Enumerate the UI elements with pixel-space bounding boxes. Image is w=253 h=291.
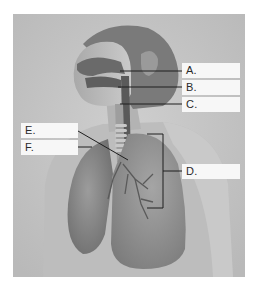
label-a[interactable]: A. xyxy=(182,63,240,78)
label-c-text: C. xyxy=(186,98,197,110)
label-b[interactable]: B. xyxy=(182,80,240,95)
label-c[interactable]: C. xyxy=(182,97,240,112)
label-f[interactable]: F. xyxy=(21,140,78,155)
label-f-text: F. xyxy=(25,141,34,153)
label-d-text: D. xyxy=(186,165,197,177)
label-e-text: E. xyxy=(25,124,36,136)
label-b-text: B. xyxy=(186,81,197,93)
label-a-text: A. xyxy=(186,64,197,76)
label-d[interactable]: D. xyxy=(182,164,240,179)
label-e[interactable]: E. xyxy=(21,123,78,138)
